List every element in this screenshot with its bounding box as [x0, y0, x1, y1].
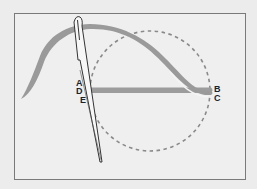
- label-c: C: [214, 94, 221, 103]
- label-e: E: [80, 96, 86, 105]
- frame: [15, 14, 246, 180]
- diagram-canvas: A D E B C: [0, 0, 257, 189]
